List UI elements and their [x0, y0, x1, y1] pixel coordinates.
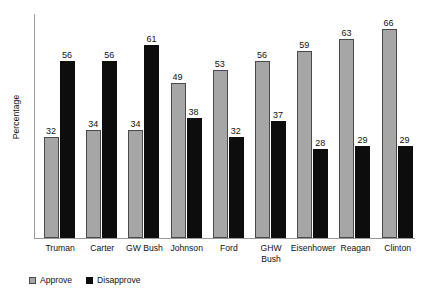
bar-value-label: 56 — [96, 50, 122, 60]
bar-approve — [86, 130, 101, 238]
bar-value-label: 66 — [376, 18, 402, 28]
bar-disapprove — [144, 45, 159, 238]
bar-value-label: 29 — [392, 135, 418, 145]
bar-disapprove — [187, 118, 202, 238]
bar-value-label: 37 — [265, 110, 291, 120]
bar-disapprove — [60, 61, 75, 238]
bar-chart: Percentage 32563456346149385332563759286… — [0, 0, 425, 297]
bar-value-label: 63 — [333, 28, 359, 38]
y-axis-title: Percentage — [11, 77, 21, 157]
x-axis-line — [34, 238, 415, 239]
bar-value-label: 29 — [349, 135, 375, 145]
bar-group: 6629 — [377, 14, 419, 238]
bar-group: 6329 — [334, 14, 376, 238]
bar-group: 3461 — [123, 14, 165, 238]
bar-group: 5332 — [208, 14, 250, 238]
bar-value-label: 56 — [249, 50, 275, 60]
bar-disapprove — [102, 61, 117, 238]
legend-item-label: Approve — [40, 275, 72, 285]
bar-group: 5637 — [250, 14, 292, 238]
bar-value-label: 32 — [223, 126, 249, 136]
bar-approve — [44, 137, 59, 238]
bar-disapprove — [355, 146, 370, 238]
bar-value-label: 56 — [54, 50, 80, 60]
bar-approve — [128, 130, 143, 238]
legend-swatch-icon — [86, 277, 93, 284]
bar-value-label: 59 — [291, 40, 317, 50]
bar-approve — [255, 61, 270, 238]
plot-area: 325634563461493853325637592863296629 — [35, 14, 415, 238]
legend-item-label: Disapprove — [97, 275, 140, 285]
bar-group: 4938 — [166, 14, 208, 238]
bar-approve — [213, 70, 228, 238]
legend-item-approve[interactable]: Approve — [29, 275, 72, 285]
bar-disapprove — [229, 137, 244, 238]
bar-disapprove — [271, 121, 286, 238]
bar-value-label: 53 — [207, 59, 233, 69]
bar-value-label: 49 — [165, 72, 191, 82]
bar-group: 3456 — [81, 14, 123, 238]
bar-approve — [382, 29, 397, 238]
bar-group: 3256 — [39, 14, 81, 238]
bar-value-label: 28 — [307, 138, 333, 148]
bar-disapprove — [398, 146, 413, 238]
bar-disapprove — [313, 149, 328, 238]
x-axis-tick-label: Clinton — [370, 243, 425, 254]
legend-item-disapprove[interactable]: Disapprove — [86, 275, 140, 285]
bar-value-label: 61 — [138, 34, 164, 44]
bar-group: 5928 — [292, 14, 334, 238]
bar-value-label: 38 — [181, 107, 207, 117]
chart-legend: ApproveDisapprove — [29, 275, 140, 285]
legend-swatch-icon — [29, 277, 36, 284]
